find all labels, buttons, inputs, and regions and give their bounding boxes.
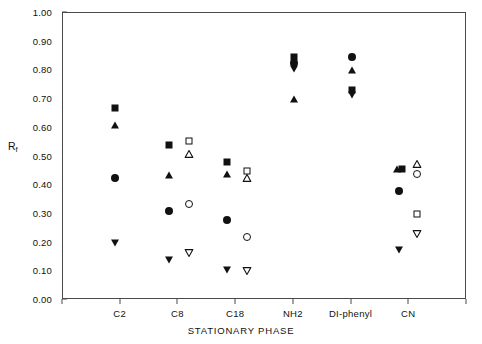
y-axis-tick-label: 0.30 — [33, 207, 52, 218]
data-point-circle-open — [413, 170, 421, 178]
data-point-triangle-down-open — [184, 249, 193, 257]
data-point-circle-filled — [395, 187, 403, 195]
x-axis-tick-label-cn: CN — [401, 308, 415, 319]
y-axis-title-base: R — [8, 140, 16, 152]
x-axis-tick-label-c2: C2 — [113, 308, 126, 319]
x-axis-tick-mark — [350, 299, 351, 304]
data-point-triangle-up-filled — [290, 96, 298, 103]
data-point-triangle-up-filled — [111, 121, 119, 128]
y-axis-tick-label: 0.90 — [33, 35, 52, 46]
scatter-chart-figure: 0.000.100.200.300.400.500.600.700.800.90… — [0, 0, 482, 344]
x-axis-tick-mark — [177, 299, 178, 304]
x-axis-tick-mark — [292, 299, 293, 304]
y-axis-tick-label: 0.20 — [33, 236, 52, 247]
data-point-circle-filled — [165, 207, 173, 215]
x-axis-tick-label-c18: C18 — [226, 308, 244, 319]
data-point-circle-filled — [223, 216, 231, 224]
y-axis-tick-label: 0.40 — [33, 179, 52, 190]
y-axis-tick-label: 0.70 — [33, 93, 52, 104]
y-axis-title: Rf — [8, 140, 18, 154]
x-axis-end-tick-mark — [466, 299, 467, 304]
data-point-triangle-up-open — [184, 150, 193, 158]
data-point-circle-open — [243, 233, 251, 241]
data-point-square-filled — [111, 104, 118, 111]
data-point-triangle-up-open — [242, 174, 251, 182]
data-point-circle-open — [185, 200, 193, 208]
data-point-triangle-up-filled — [348, 67, 356, 74]
data-point-triangle-up-filled — [393, 166, 401, 173]
x-axis-tick-mark — [235, 299, 236, 304]
data-point-square-open — [185, 137, 192, 144]
x-axis-tick-labels: C2C8C18NH2DI-phenylCN — [62, 308, 466, 322]
data-point-triangle-up-open — [413, 160, 422, 168]
y-axis-tick-label: 0.80 — [33, 64, 52, 75]
data-point-triangle-down-filled — [290, 65, 298, 72]
data-point-square-filled — [166, 142, 173, 149]
x-axis-tick-label-nh2: NH2 — [283, 308, 303, 319]
data-point-triangle-down-filled — [111, 239, 119, 246]
data-point-triangle-down-open — [413, 230, 422, 238]
x-axis-title: STATIONARY PHASE — [0, 325, 482, 336]
x-axis-tick-label-c8: C8 — [171, 308, 184, 319]
y-axis-tick-label: 0.10 — [33, 265, 52, 276]
x-axis-tick-mark — [119, 299, 120, 304]
y-axis-title-subscript: f — [16, 145, 18, 154]
x-axis-tick-label-di-phenyl: DI-phenyl — [329, 308, 372, 319]
data-point-square-open — [414, 210, 421, 217]
data-point-square-filled — [223, 159, 230, 166]
plot-area — [63, 13, 465, 298]
y-axis-tick-label: 0.00 — [33, 294, 52, 305]
y-axis-tick-label: 0.50 — [33, 150, 52, 161]
data-point-triangle-up-filled — [165, 172, 173, 179]
x-axis-end-tick-mark — [62, 299, 63, 304]
y-axis-tick-label: 1.00 — [33, 7, 52, 18]
x-axis-tick-mark — [408, 299, 409, 304]
data-point-triangle-down-filled — [223, 266, 231, 273]
data-point-triangle-down-filled — [348, 91, 356, 98]
data-point-triangle-down-filled — [165, 256, 173, 263]
y-axis-tick-labels: 0.000.100.200.300.400.500.600.700.800.90… — [10, 12, 52, 299]
data-point-circle-filled — [111, 174, 119, 182]
data-point-circle-filled — [348, 53, 356, 61]
y-axis-tick-label: 0.60 — [33, 121, 52, 132]
x-axis-tick-marks — [62, 299, 466, 305]
data-point-triangle-up-filled — [223, 170, 231, 177]
plot-frame — [62, 12, 466, 299]
data-point-triangle-down-filled — [395, 246, 403, 253]
data-point-triangle-down-open — [242, 267, 251, 275]
